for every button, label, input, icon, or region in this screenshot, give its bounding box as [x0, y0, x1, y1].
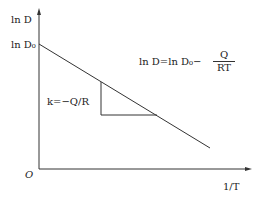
equation-lhs: ln D=ln D₀−: [139, 56, 201, 67]
origin-label: O: [25, 170, 33, 180]
equation-denominator: RT: [213, 62, 235, 73]
equation: ln D=ln D₀−: [139, 57, 201, 67]
y-axis-label: ln D: [11, 15, 32, 25]
y-axis-arrow-icon: [37, 8, 41, 15]
equation-fraction: Q RT: [213, 50, 235, 73]
x-axis-label: 1/T: [223, 182, 239, 192]
slope-label: k=−Q/R: [47, 97, 89, 107]
x-axis-arrow-icon: [245, 167, 252, 171]
y-intercept-label: ln D₀: [11, 40, 36, 50]
diagram-canvas: [0, 0, 260, 197]
equation-numerator: Q: [213, 50, 235, 62]
